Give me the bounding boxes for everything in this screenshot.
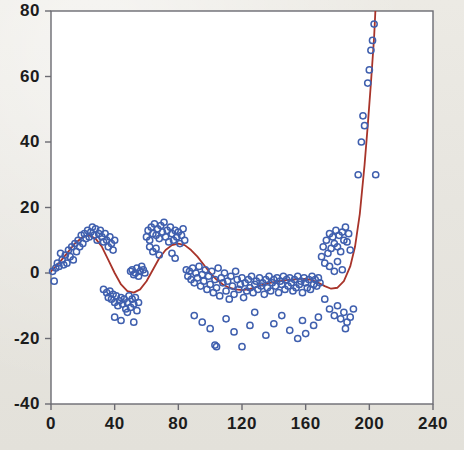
x-tick-label: 240 (413, 414, 453, 434)
x-tick-label: 120 (222, 414, 262, 434)
plot-area-background (51, 11, 433, 404)
y-tick-label: -20 (0, 329, 40, 349)
y-tick-label: 40 (0, 132, 40, 152)
plot-canvas (0, 0, 464, 450)
x-tick-label: 40 (95, 414, 135, 434)
x-tick-label: 200 (349, 414, 389, 434)
y-tick-label: 20 (0, 198, 40, 218)
scatter-plot-figure: 04080120160200240 806040200-20-40 (0, 0, 464, 450)
x-tick-label: 160 (286, 414, 326, 434)
x-tick-label: 0 (31, 414, 71, 434)
y-tick-label: 80 (0, 1, 40, 21)
y-tick-label: -40 (0, 394, 40, 414)
y-tick-label: 60 (0, 67, 40, 87)
y-tick-label: 0 (0, 263, 40, 283)
x-tick-label: 80 (158, 414, 198, 434)
